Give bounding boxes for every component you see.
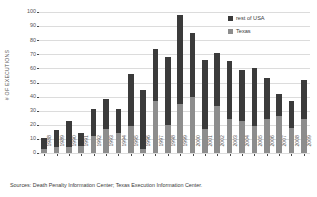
y-tick-mark [37,139,39,140]
bar-segment-rest-of-usa [264,78,270,119]
y-tick-label: 50 [22,80,36,85]
x-tick-label-1996: 1996 [145,135,151,157]
bar-segment-rest-of-usa [177,15,183,104]
x-tick-mark [168,154,169,156]
x-tick-mark [205,154,206,156]
legend-item: Texas [228,28,265,34]
x-tick-mark [69,154,70,156]
y-axis-title-text: # OF EXECUTIONS [4,50,10,100]
gridline [38,54,310,55]
x-tick-mark [279,154,280,156]
gridline [38,40,310,41]
source-note: Sources: Death Penalty Information Cente… [10,182,202,188]
bar-segment-rest-of-usa [116,109,122,133]
legend-swatch-icon [228,16,233,21]
y-tick-label: 80 [22,38,36,43]
x-tick-mark [44,154,45,156]
x-tick-mark [131,154,132,156]
x-tick-label-1991: 1991 [83,135,89,157]
x-tick-label-2000: 2000 [195,135,201,157]
bar-segment-rest-of-usa [214,53,220,107]
y-tick-label: 60 [22,66,36,71]
y-tick-label: 10 [22,136,36,141]
y-tick-label: 90 [22,23,36,28]
y-tick-mark [37,111,39,112]
y-tick-mark [37,83,39,84]
x-tick-mark [155,154,156,156]
legend-label: Texas [236,28,251,34]
x-tick-label-2002: 2002 [219,135,225,157]
y-tick-label: 0 [22,150,36,155]
x-tick-mark [267,154,268,156]
y-tick-mark [37,153,39,154]
bar-segment-rest-of-usa [227,61,233,119]
y-tick-label: 70 [22,52,36,57]
y-tick-mark [37,12,39,13]
x-tick-mark [143,154,144,156]
y-tick-label: 20 [22,122,36,127]
chart-legend: rest of USATexas [228,15,265,41]
x-tick-mark [291,154,292,156]
x-tick-mark [242,154,243,156]
x-tick-label-1988: 1988 [46,135,52,157]
x-tick-label-2004: 2004 [244,135,250,157]
x-tick-label-1994: 1994 [121,135,127,157]
y-tick-label: 100 [22,9,36,14]
x-tick-mark [217,154,218,156]
bar-1999 [177,15,183,153]
bar-segment-rest-of-usa [103,99,109,129]
plot-area [38,12,310,153]
legend-label: rest of USA [236,15,265,21]
y-tick-mark [37,26,39,27]
x-tick-label-2008: 2008 [294,135,300,157]
y-axis-tick-labels: 1009080706050403020100 [20,12,36,153]
bar-segment-rest-of-usa [239,70,245,121]
x-tick-label-2005: 2005 [257,135,263,157]
x-tick-label-1990: 1990 [71,135,77,157]
y-tick-label: 30 [22,108,36,113]
y-tick-mark [37,125,39,126]
y-tick-mark [37,40,39,41]
bar-segment-rest-of-usa [190,33,196,96]
y-tick-label: 40 [22,94,36,99]
x-tick-label-1989: 1989 [59,135,65,157]
x-tick-label-2006: 2006 [269,135,275,157]
execution-stacked-bar-chart: # OF EXECUTIONS 1009080706050403020100 1… [0,0,317,197]
x-tick-label-2009: 2009 [306,135,312,157]
bar-segment-rest-of-usa [289,101,295,128]
x-tick-label-1995: 1995 [133,135,139,157]
x-tick-mark [106,154,107,156]
x-tick-mark [94,154,95,156]
bar-segment-rest-of-usa [128,74,134,126]
x-tick-label-2001: 2001 [207,135,213,157]
x-tick-label-1997: 1997 [158,135,164,157]
x-tick-mark [57,154,58,156]
legend-swatch-icon [228,29,233,34]
x-tick-label-1992: 1992 [96,135,102,157]
bar-segment-rest-of-usa [153,49,159,101]
x-tick-label-1999: 1999 [182,135,188,157]
y-tick-mark [37,68,39,69]
legend-item: rest of USA [228,15,265,21]
x-tick-mark [81,154,82,156]
x-tick-mark [304,154,305,156]
x-tick-label-1993: 1993 [108,135,114,157]
bar-segment-rest-of-usa [91,109,97,136]
gridline [38,68,310,69]
x-tick-mark [254,154,255,156]
bar-segment-rest-of-usa [276,94,282,117]
y-tick-mark [37,54,39,55]
x-tick-label-2003: 2003 [232,135,238,157]
x-tick-mark [118,154,119,156]
x-tick-mark [193,154,194,156]
x-tick-mark [230,154,231,156]
bar-segment-rest-of-usa [202,60,208,129]
bar-segment-rest-of-usa [165,57,171,125]
bar-segment-rest-of-usa [301,80,307,119]
y-axis-title: # OF EXECUTIONS [0,0,14,150]
gridline [38,26,310,27]
bar-segment-rest-of-usa [252,68,258,126]
x-tick-label-1998: 1998 [170,135,176,157]
x-tick-mark [180,154,181,156]
gridline [38,12,310,13]
